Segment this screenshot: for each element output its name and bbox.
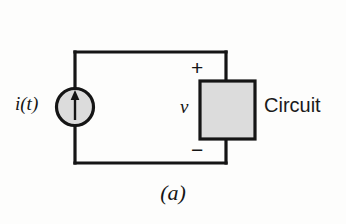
current-source-symbol [57, 89, 94, 126]
figure-caption: (a) [0, 182, 346, 204]
circuit-block-rect [200, 81, 255, 139]
circuit-block-label: Circuit [264, 95, 321, 115]
voltage-polarity-minus: − [191, 139, 203, 160]
voltage-label: v [180, 97, 188, 116]
figure-container: i(t) v + − Circuit (a) [0, 0, 346, 224]
voltage-polarity-plus: + [191, 57, 203, 78]
current-source-label: i(t) [15, 94, 38, 113]
